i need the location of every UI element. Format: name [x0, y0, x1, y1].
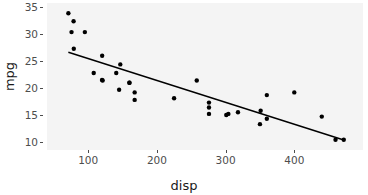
- data-point: [236, 110, 240, 114]
- data-point: [118, 62, 122, 66]
- plot-panel: [47, 3, 363, 150]
- data-point: [207, 105, 211, 109]
- scatter-plot-figure: 101520253035 100200300400 disp mpg: [0, 0, 368, 195]
- regression-line-segment: [68, 52, 343, 140]
- data-point: [132, 98, 136, 102]
- data-point: [258, 108, 262, 112]
- data-point: [342, 138, 346, 142]
- y-tick-mark: [40, 142, 43, 143]
- y-tick-label: 15: [16, 109, 38, 121]
- data-point: [265, 93, 269, 97]
- data-point: [207, 100, 211, 104]
- data-point: [72, 47, 76, 51]
- y-tick-mark: [40, 7, 43, 8]
- x-tick-mark: [294, 150, 295, 153]
- x-axis: 100200300400: [47, 150, 363, 170]
- x-tick-label: 100: [68, 154, 108, 166]
- x-axis-title: disp: [0, 178, 368, 193]
- x-tick-mark: [157, 150, 158, 153]
- x-tick-label: 300: [206, 154, 246, 166]
- y-tick-label: 35: [16, 1, 38, 13]
- data-point: [100, 78, 104, 82]
- data-point: [265, 117, 269, 121]
- data-point: [195, 78, 199, 82]
- x-tick-label: 200: [137, 154, 177, 166]
- data-point: [333, 138, 337, 142]
- data-point: [71, 19, 75, 23]
- y-tick-label: 30: [16, 28, 38, 40]
- data-point: [207, 112, 211, 116]
- data-point: [224, 113, 228, 117]
- regression-line: [68, 52, 343, 140]
- x-tick-mark: [226, 150, 227, 153]
- x-tick-mark: [88, 150, 89, 153]
- data-point: [100, 54, 104, 58]
- data-point: [69, 30, 73, 34]
- data-point: [117, 87, 121, 91]
- x-tick-label: 400: [274, 154, 314, 166]
- data-points: [66, 11, 346, 142]
- data-point: [66, 11, 70, 15]
- data-point: [132, 90, 136, 94]
- plot-canvas: [47, 3, 363, 150]
- data-point: [320, 114, 324, 118]
- data-point: [92, 71, 96, 75]
- y-tick-mark: [40, 34, 43, 35]
- data-point: [292, 90, 296, 94]
- y-axis-title: mpg: [0, 55, 86, 99]
- y-tick-mark: [40, 115, 43, 116]
- y-tick-label: 10: [16, 136, 38, 148]
- data-point: [127, 80, 131, 84]
- data-point: [172, 96, 176, 100]
- data-point: [114, 71, 118, 75]
- data-point: [83, 30, 87, 34]
- data-point: [258, 122, 262, 126]
